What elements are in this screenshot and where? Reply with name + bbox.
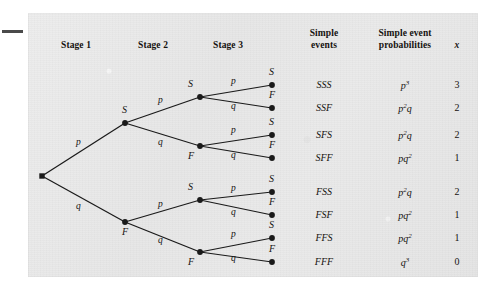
node-SF (197, 143, 203, 149)
edge-label-FS-FSS: p (231, 183, 236, 193)
prob-cell: p3 (358, 79, 452, 91)
x-cell: 2 (446, 129, 468, 140)
edge-root-S (42, 123, 125, 176)
node-label-leaf-FSS: S (269, 173, 274, 184)
node-label-leaf-SSF: F (269, 89, 275, 100)
table-row: SFF (293, 152, 355, 163)
edge-label-F-FF: q (158, 235, 163, 245)
node-leaf-SSS (269, 82, 275, 88)
edge-root-F (42, 176, 125, 222)
node-label-SF: F (188, 150, 194, 161)
header-x: x (446, 40, 468, 52)
node-FF (197, 249, 203, 255)
edge-SF-SFS (200, 135, 272, 146)
node-F (122, 219, 128, 225)
edge-label-S-SS: p (158, 95, 163, 105)
table-row: FSF (293, 209, 355, 220)
prob-cell: pq2 (358, 232, 452, 244)
node-leaf-FSS (269, 189, 275, 195)
table-row: SFS (293, 129, 355, 140)
node-label-leaf-FSF: F (269, 196, 275, 207)
node-label-leaf-FFS: S (269, 219, 274, 230)
edge-label-root-F: q (76, 201, 81, 211)
edge-FF-FFF (200, 252, 272, 262)
node-label-FS: S (188, 181, 193, 192)
header-stage-1: Stage 1 (44, 40, 108, 52)
edge-label-F-FS: p (158, 199, 163, 209)
node-label-S: S (122, 104, 127, 115)
x-cell: 3 (446, 79, 468, 90)
x-cell: 2 (446, 186, 468, 197)
edge-SF-SFF (200, 146, 272, 158)
node-leaf-FFF (269, 259, 275, 265)
table-row: SSF (293, 102, 355, 113)
node-leaf-SSF (269, 105, 275, 111)
edge-label-SS-SSS: p (231, 76, 236, 86)
edge-FF-FFS (200, 238, 272, 252)
table-row: FSS (293, 186, 355, 197)
prob-cell: q3 (358, 256, 452, 268)
edge-SS-SSS (200, 85, 272, 97)
edge-label-FS-FSF: q (231, 207, 236, 217)
edge-FS-FSF (200, 200, 272, 215)
node-label-leaf-SFF: F (269, 139, 275, 150)
node-leaf-SFF (269, 155, 275, 161)
node-leaf-SFS (269, 132, 275, 138)
edge-label-SS-SSF: q (231, 101, 236, 111)
edge-label-SF-SFS: p (231, 125, 236, 135)
node-label-F: F (122, 226, 128, 237)
prob-cell: p2q (358, 102, 452, 114)
edge-label-SF-SFF: q (231, 150, 236, 160)
header-simple-events: Simple events (293, 28, 355, 51)
edge-SS-SSF (200, 97, 272, 108)
header-stage-3: Stage 3 (196, 40, 260, 52)
edge-FS-FSS (200, 192, 272, 200)
x-cell: 2 (446, 102, 468, 113)
prob-cell: pq2 (358, 209, 452, 221)
header-stage-2: Stage 2 (121, 40, 185, 52)
prob-cell: p2q (358, 186, 452, 198)
prob-cell: p2q (358, 129, 452, 141)
x-cell: 0 (446, 256, 468, 267)
table-row: FFS (293, 232, 355, 243)
node-SS (197, 94, 203, 100)
node-S (122, 120, 128, 126)
edge-label-FF-FFF: q (231, 253, 236, 263)
figure-canvas: Stage 1 Stage 2 Stage 3 Simple events Si… (0, 0, 492, 296)
x-cell: 1 (446, 152, 468, 163)
node-label-FF: F (188, 256, 194, 267)
node-label-leaf-SFS: S (269, 116, 274, 127)
node-leaf-FFS (269, 235, 275, 241)
edge-label-FF-FFS: p (231, 229, 236, 239)
node-FS (197, 197, 203, 203)
x-cell: 1 (446, 209, 468, 220)
node-label-SS: S (188, 78, 193, 89)
node-label-leaf-FFF: F (269, 243, 275, 254)
prob-cell: pq2 (358, 152, 452, 164)
table-row: FFF (293, 256, 355, 267)
edge-label-root-S: p (76, 137, 81, 147)
node-leaf-FSF (269, 212, 275, 218)
table-row: SSS (293, 79, 355, 90)
node-root (39, 173, 44, 178)
x-cell: 1 (446, 232, 468, 243)
node-label-leaf-SSS: S (269, 66, 274, 77)
edge-label-S-SF: q (158, 137, 163, 147)
header-simple-event-probabilities: Simple event probabilities (358, 28, 452, 51)
